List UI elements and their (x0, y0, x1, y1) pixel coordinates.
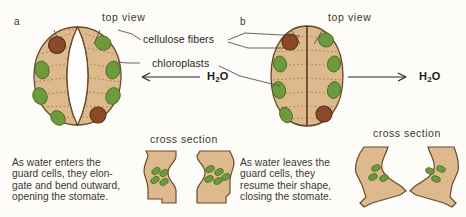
cross-section-label-b: cross section (373, 127, 441, 139)
cross-guard-cell-right-open (197, 151, 234, 203)
water-label-panel-a: H2O (207, 70, 229, 84)
callout-label-cellulose-fibers: cellulose fibers (143, 33, 214, 45)
caption-b-line-2: guard cells, they (240, 168, 385, 179)
callout-label-chloroplasts: chloroplasts (152, 57, 209, 69)
caption-a-line-1: As water enters the (12, 157, 157, 168)
caption-a-line-4: opening the stomate. (12, 191, 157, 202)
figure-root: a top view (0, 0, 466, 217)
cross-section-label-a: cross section (150, 133, 218, 145)
caption-b-line-3: resume their shape, (240, 180, 385, 191)
caption-a-line-3: gate and bend outward, (12, 180, 157, 191)
caption-panel-b: As water leaves the guard cells, they re… (240, 157, 385, 203)
callout-leader-lines (0, 0, 466, 130)
caption-a-line-2: guard cells, they elon- (12, 168, 157, 179)
water-label-panel-b: H2O (419, 70, 441, 84)
water-arrow-out (348, 70, 416, 84)
caption-b-line-1: As water leaves the (240, 157, 385, 168)
caption-panel-a: As water enters the guard cells, they el… (12, 157, 157, 203)
cross-guard-cell-right-closed (410, 147, 459, 207)
caption-b-line-4: closing the stomate. (240, 191, 385, 202)
water-arrow-in (134, 70, 202, 84)
